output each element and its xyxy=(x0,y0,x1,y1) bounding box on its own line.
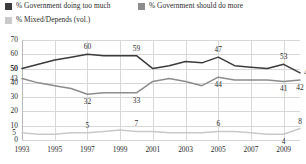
line-chart: % Government doing too much % Government… xyxy=(0,0,306,164)
legend-item-too-much: % Government doing too much xyxy=(5,2,111,10)
data-point-label: 47 xyxy=(304,69,306,77)
legend-swatch-too-much xyxy=(5,3,12,10)
x-tick-label: 1993 xyxy=(15,145,30,154)
legend-label-too-much: % Government doing too much xyxy=(16,2,111,10)
data-point-label: 7 xyxy=(135,120,139,128)
data-point-label: 33 xyxy=(133,97,140,105)
legend-item-mixed: % Mixed/Depends (vol.) xyxy=(5,16,90,24)
legend-swatch-do-more xyxy=(138,3,145,10)
x-tick-label: 2005 xyxy=(211,145,226,154)
x-tick-label: 1997 xyxy=(80,145,95,154)
x-tick-label: 1999 xyxy=(113,145,128,154)
legend-label-mixed: % Mixed/Depends (vol.) xyxy=(16,16,90,24)
data-point-label: 60 xyxy=(84,43,91,51)
legend-swatch-mixed xyxy=(5,17,12,24)
series-line xyxy=(22,77,300,94)
x-axis-ticks: 199319951997199920012003200520072009 xyxy=(22,145,300,159)
y-tick-label: 30 xyxy=(2,93,18,101)
data-point-label: 32 xyxy=(84,98,91,106)
y-tick-label: 20 xyxy=(2,107,18,115)
data-point-label: 43 xyxy=(10,75,17,83)
y-tick-label: 60 xyxy=(2,50,18,58)
series-line xyxy=(22,54,300,73)
data-point-label: 5 xyxy=(12,129,16,137)
legend-item-do-more: % Government should do more xyxy=(138,2,243,10)
data-point-label: 6 xyxy=(216,120,220,128)
series-line xyxy=(22,129,300,135)
plot-area: 506059475347433233444142557648 xyxy=(22,40,300,140)
data-point-label: 8 xyxy=(298,118,302,126)
y-tick-label: 70 xyxy=(2,36,18,44)
data-point-label: 42 xyxy=(296,84,303,92)
gridline-horizontal xyxy=(22,140,300,141)
data-point-label: 59 xyxy=(133,45,140,53)
y-tick-label: 0 xyxy=(2,136,18,144)
x-tick-label: 2007 xyxy=(244,145,259,154)
legend-label-do-more: % Government should do more xyxy=(149,2,243,10)
data-point-label: 47 xyxy=(215,46,222,54)
data-point-label: 53 xyxy=(280,53,287,61)
data-point-label: 5 xyxy=(86,122,90,130)
x-tick-label: 2001 xyxy=(145,145,160,154)
chart-legend: % Government doing too much % Government… xyxy=(0,0,306,32)
x-tick-label: 1995 xyxy=(47,145,62,154)
x-tick-label: 2009 xyxy=(276,145,291,154)
data-point-label: 44 xyxy=(215,81,222,89)
data-point-label: 41 xyxy=(280,85,287,93)
x-tick-label: 2003 xyxy=(178,145,193,154)
series-lines xyxy=(22,40,300,140)
data-point-label: 50 xyxy=(10,65,17,73)
